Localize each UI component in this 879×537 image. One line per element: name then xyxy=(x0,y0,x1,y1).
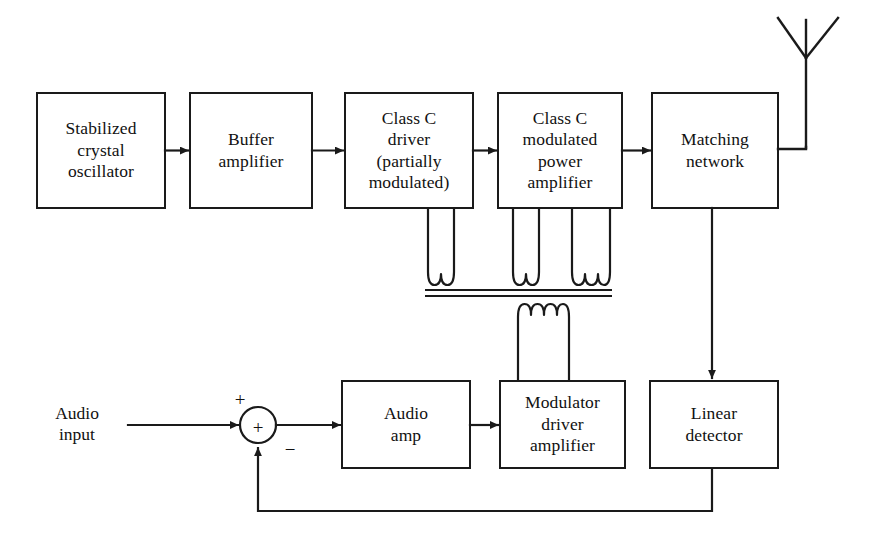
block-linear-detector xyxy=(650,381,778,468)
feedback-path-linear-detector-to-summing-junction xyxy=(258,448,712,511)
winding-class-c-pa-primary-1 xyxy=(513,208,539,285)
block-modulator-driver-amplifier xyxy=(500,381,625,468)
block-class-c-driver xyxy=(345,93,473,208)
block-class-c-modulated-power-amplifier xyxy=(498,93,622,208)
summing-junction-positive-sign: + xyxy=(232,390,248,409)
antenna-arm-right xyxy=(806,18,838,58)
winding-modulator-secondary xyxy=(518,304,569,381)
block-audio-amp xyxy=(342,381,470,468)
antenna-arm-left xyxy=(778,18,806,58)
summing-junction-plus-glyph: + xyxy=(248,418,268,437)
diagram-canvas: Stabilized crystal oscillator Buffer amp… xyxy=(0,0,879,537)
antenna-feed-line xyxy=(778,147,806,149)
block-buffer-amplifier xyxy=(190,93,312,208)
block-stabilized-crystal-oscillator xyxy=(37,93,165,208)
winding-class-c-pa-primary-2 xyxy=(572,208,610,285)
winding-class-c-driver-primary xyxy=(428,208,454,285)
label-audio-input: Audio input xyxy=(31,403,123,446)
block-matching-network xyxy=(652,93,778,208)
summing-junction-negative-sign: − xyxy=(282,440,298,459)
diagram-graphics xyxy=(0,0,879,537)
